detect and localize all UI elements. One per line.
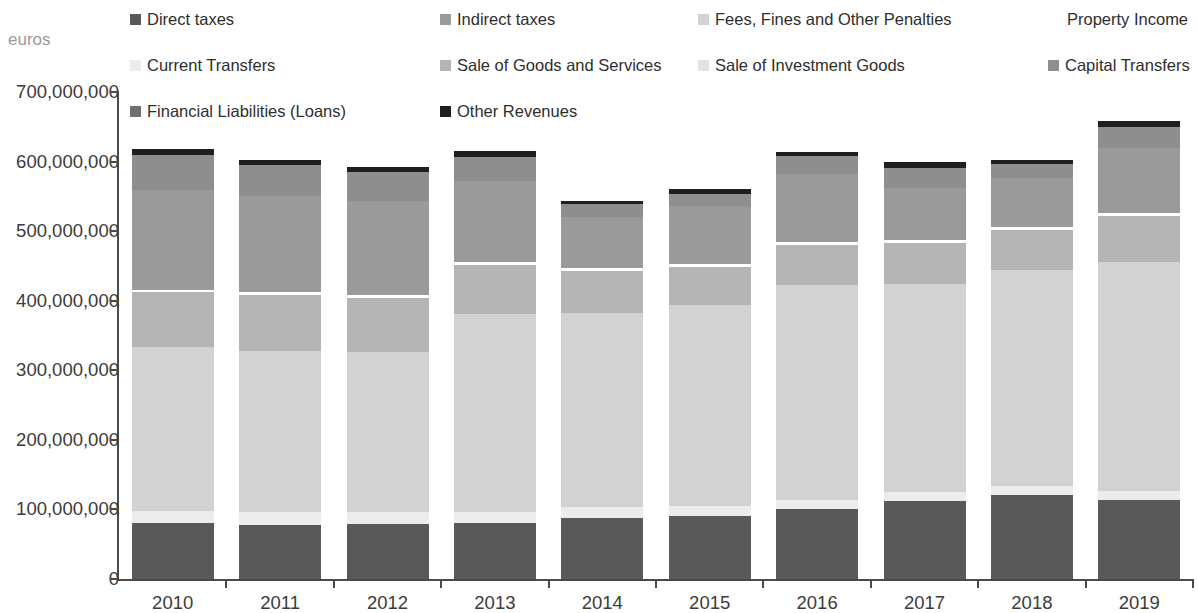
bar-segment[interactable] bbox=[561, 518, 643, 579]
bar-segment[interactable] bbox=[132, 292, 214, 346]
bar-segment[interactable] bbox=[776, 156, 858, 174]
stacked-bar[interactable] bbox=[239, 159, 321, 579]
bar-segment[interactable] bbox=[776, 285, 858, 500]
bar-segment[interactable] bbox=[991, 230, 1073, 270]
bar-segment[interactable] bbox=[454, 151, 536, 157]
legend-row: Financial Liabilities (Loans)Other Reven… bbox=[120, 54, 1190, 77]
bar-segment[interactable] bbox=[347, 167, 429, 172]
bar-segment[interactable] bbox=[776, 152, 858, 156]
bar-segment[interactable] bbox=[776, 174, 858, 242]
bar-segment[interactable] bbox=[347, 352, 429, 512]
stacked-bar[interactable] bbox=[1098, 121, 1180, 579]
bar-segment[interactable] bbox=[776, 500, 858, 510]
bar-segment[interactable] bbox=[239, 160, 321, 166]
bar-segment[interactable] bbox=[239, 351, 321, 512]
bar-segment[interactable] bbox=[776, 509, 858, 579]
bar-segment[interactable] bbox=[561, 268, 643, 271]
bar-segment[interactable] bbox=[239, 525, 321, 579]
bar-segment[interactable] bbox=[669, 264, 751, 267]
stacked-bar[interactable] bbox=[991, 160, 1073, 579]
bar-segment[interactable] bbox=[347, 295, 429, 298]
bar-segment[interactable] bbox=[132, 290, 214, 293]
bar-segment[interactable] bbox=[1098, 127, 1180, 149]
stacked-bar[interactable] bbox=[454, 151, 536, 579]
bar-segment[interactable] bbox=[132, 511, 214, 524]
stacked-bar[interactable] bbox=[132, 149, 214, 579]
bar-segment[interactable] bbox=[347, 512, 429, 525]
bar-segment[interactable] bbox=[884, 168, 966, 188]
bar-segment[interactable] bbox=[991, 160, 1073, 164]
bar-segment[interactable] bbox=[884, 188, 966, 240]
bar-segment[interactable] bbox=[561, 313, 643, 508]
bar-segment[interactable] bbox=[561, 201, 643, 204]
bar-segment[interactable] bbox=[561, 204, 643, 217]
bar-segment[interactable] bbox=[669, 516, 751, 579]
stacked-bar[interactable] bbox=[669, 189, 751, 579]
bar-segment[interactable] bbox=[132, 523, 214, 579]
bar-segment[interactable] bbox=[347, 524, 429, 579]
bar-segment[interactable] bbox=[132, 155, 214, 190]
bar-segment[interactable] bbox=[347, 172, 429, 201]
bar-segment[interactable] bbox=[991, 486, 1073, 495]
bar-segment[interactable] bbox=[454, 157, 536, 181]
bar-segment[interactable] bbox=[1098, 500, 1180, 579]
plot-area: 700,000,000600,000,000500,000,000400,000… bbox=[0, 84, 1198, 604]
bar-segment[interactable] bbox=[132, 190, 214, 289]
legend-row: Direct taxesIndirect taxesFees, Fines an… bbox=[120, 8, 1190, 31]
bar-segment[interactable] bbox=[884, 162, 966, 168]
bar-segment[interactable] bbox=[239, 292, 321, 295]
bar-segment[interactable] bbox=[454, 265, 536, 314]
bar-segment[interactable] bbox=[669, 506, 751, 516]
bar-segment[interactable] bbox=[669, 194, 751, 207]
bar-segment[interactable] bbox=[991, 178, 1073, 227]
bar-segment[interactable] bbox=[1098, 148, 1180, 213]
bar-segment[interactable] bbox=[239, 196, 321, 292]
bar-segment[interactable] bbox=[991, 270, 1073, 486]
x-axis-tick-mark bbox=[655, 579, 657, 588]
bar-segment[interactable] bbox=[239, 165, 321, 196]
bar-segment[interactable] bbox=[884, 243, 966, 284]
bar-segment[interactable] bbox=[1098, 213, 1180, 216]
bar-segment[interactable] bbox=[991, 227, 1073, 230]
bar-segment[interactable] bbox=[561, 217, 643, 268]
bar-segment[interactable] bbox=[669, 267, 751, 305]
bar-segment[interactable] bbox=[669, 305, 751, 506]
bar-segment[interactable] bbox=[347, 201, 429, 295]
bar-segment[interactable] bbox=[347, 298, 429, 352]
legend-item[interactable]: Direct taxes bbox=[130, 8, 234, 31]
bar-segment[interactable] bbox=[669, 206, 751, 264]
bar-segment[interactable] bbox=[991, 164, 1073, 178]
stacked-bar[interactable] bbox=[561, 201, 643, 579]
bar-segment[interactable] bbox=[561, 271, 643, 313]
legend-item[interactable]: Property Income bbox=[1048, 8, 1188, 31]
bar-segment[interactable] bbox=[776, 242, 858, 245]
bar-segment[interactable] bbox=[669, 189, 751, 193]
y-axis-tick-mark bbox=[110, 578, 119, 580]
bar-segment[interactable] bbox=[454, 512, 536, 524]
bar-segment[interactable] bbox=[1098, 216, 1180, 263]
bar-segment[interactable] bbox=[239, 295, 321, 351]
bar-segment[interactable] bbox=[132, 347, 214, 511]
bar-segment[interactable] bbox=[1098, 491, 1180, 501]
bar-segment[interactable] bbox=[884, 240, 966, 243]
legend-swatch-icon bbox=[698, 14, 709, 25]
bar-segment[interactable] bbox=[454, 262, 536, 265]
bar-segment[interactable] bbox=[884, 284, 966, 492]
legend-item[interactable]: Fees, Fines and Other Penalties bbox=[698, 8, 952, 31]
stacked-bar[interactable] bbox=[884, 162, 966, 579]
bar-segment[interactable] bbox=[454, 523, 536, 579]
bar-segment[interactable] bbox=[884, 501, 966, 579]
bar-segment[interactable] bbox=[1098, 121, 1180, 127]
bar-segment[interactable] bbox=[454, 314, 536, 512]
bar-segment[interactable] bbox=[561, 507, 643, 517]
legend-item[interactable]: Indirect taxes bbox=[440, 8, 555, 31]
bar-segment[interactable] bbox=[884, 492, 966, 501]
stacked-bar[interactable] bbox=[776, 152, 858, 579]
bar-segment[interactable] bbox=[132, 149, 214, 155]
bar-segment[interactable] bbox=[454, 181, 536, 262]
bar-segment[interactable] bbox=[239, 512, 321, 525]
bar-segment[interactable] bbox=[1098, 262, 1180, 490]
bar-segment[interactable] bbox=[991, 495, 1073, 579]
bar-segment[interactable] bbox=[776, 245, 858, 285]
stacked-bar[interactable] bbox=[347, 167, 429, 579]
